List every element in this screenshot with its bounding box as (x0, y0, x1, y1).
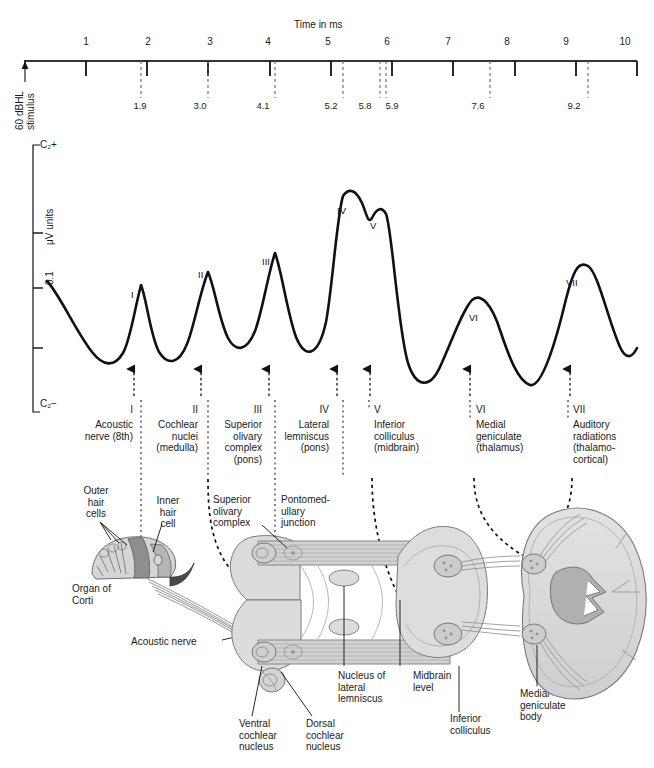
cerebrum-illustration (522, 508, 647, 699)
peak-pointer-arrows (134, 369, 570, 396)
annotation-separators (141, 400, 568, 549)
organ-of-corti-illustration (92, 522, 194, 586)
abr-figure: Time in ms 1 2 3 4 5 6 7 8 9 10 1.9 3.0 … (0, 0, 654, 768)
time-axis (22, 61, 637, 82)
figure-vector-layer (0, 0, 654, 768)
abr-waveform (47, 191, 637, 385)
amplitude-axis (33, 145, 43, 412)
